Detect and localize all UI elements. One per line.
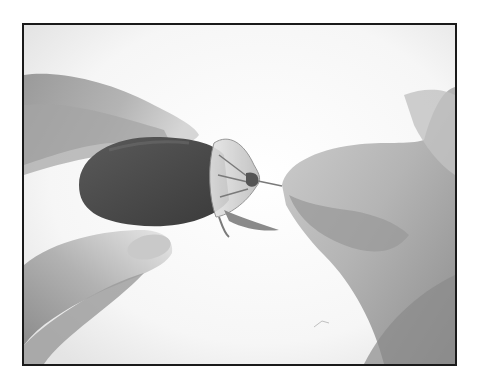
photo-illustration bbox=[24, 25, 455, 364]
photo-frame bbox=[22, 23, 457, 366]
